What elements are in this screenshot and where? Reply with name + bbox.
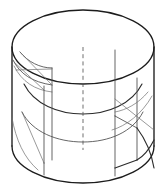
- cylinder-drawing-svg: [0, 0, 164, 196]
- technical-drawing-figure: [0, 0, 164, 196]
